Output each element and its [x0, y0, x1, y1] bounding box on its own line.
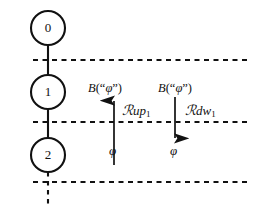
- node-1-label: 1: [31, 75, 65, 109]
- arrow-down-tail-label: φ: [170, 144, 177, 157]
- r-up-word: up: [133, 103, 146, 118]
- r-up-script: ℛ: [122, 102, 133, 118]
- r-down-script: ℛ: [185, 102, 196, 118]
- b-up-fn: B: [88, 81, 96, 95]
- arrow-up-tail-label: φ: [109, 144, 116, 157]
- b-up-close-paren: ): [118, 81, 122, 95]
- node-2-label: 2: [31, 138, 65, 172]
- r-down-word: dw: [196, 103, 211, 118]
- arrow-up-head-label: B(“φ”): [88, 82, 122, 95]
- arrow-up-rule-label: ℛup1: [122, 103, 151, 119]
- b-down-close-paren: ): [188, 81, 192, 95]
- r-up-subscript: 1: [146, 109, 151, 119]
- figure-canvas: 0 1 2 B(“φ”) B(“φ”) ℛup1 ℛdw1 φ φ: [0, 0, 254, 214]
- b-down-fn: B: [158, 81, 166, 95]
- arrow-down-rule-label: ℛdw1: [185, 103, 216, 119]
- arrow-down-head-label: B(“φ”): [158, 82, 192, 95]
- node-0-label: 0: [31, 11, 65, 45]
- r-down-subscript: 1: [211, 109, 216, 119]
